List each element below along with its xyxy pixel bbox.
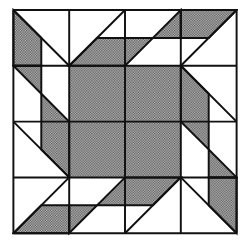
arm-parallelogram: [41, 94, 69, 178]
arm-parallelogram: [97, 177, 181, 205]
arm-parallelogram: [181, 66, 209, 150]
arm-parallelogram: [69, 38, 153, 66]
arm-trapezoid: [209, 177, 237, 233]
quilt-block-diagram: [12, 8, 238, 238]
arm-trapezoid: [13, 10, 41, 66]
arm-trapezoid: [181, 10, 237, 38]
arm-trapezoid: [13, 205, 69, 233]
